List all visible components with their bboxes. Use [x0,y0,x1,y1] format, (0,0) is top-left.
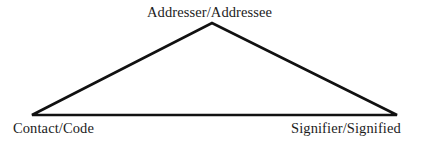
vertex-label-addresser-addressee: Addresser/Addressee [147,4,272,20]
semiotic-triangle-diagram: Addresser/Addressee Contact/Code Signifi… [0,0,431,146]
triangle-outline [32,23,397,115]
vertex-label-signifier-signified: Signifier/Signified [291,120,401,136]
vertex-label-contact-code: Contact/Code [13,120,94,136]
